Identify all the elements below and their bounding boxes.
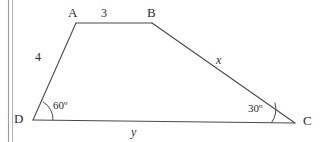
side-label-ab: 3	[101, 7, 107, 19]
segment-dc	[33, 120, 295, 123]
figure-canvas	[0, 0, 326, 142]
side-label-da: 4	[35, 51, 41, 63]
side-label-bc: x	[216, 54, 221, 66]
segment-bc	[152, 23, 295, 123]
vertex-label-d: D	[14, 112, 23, 125]
angle-arc-d	[43, 102, 53, 120]
vertex-label-c: C	[303, 114, 312, 127]
angle-label-d: 60º	[53, 100, 67, 111]
side-label-dc: y	[131, 126, 136, 138]
vertex-label-b: B	[147, 6, 156, 19]
angle-arc-c	[272, 103, 276, 123]
page-binding-edge	[9, 0, 13, 142]
geometry-figure: A B C D 3 4 x y 60º 30º	[0, 0, 326, 142]
vertex-label-a: A	[68, 6, 77, 19]
angle-label-c: 30º	[248, 103, 262, 114]
